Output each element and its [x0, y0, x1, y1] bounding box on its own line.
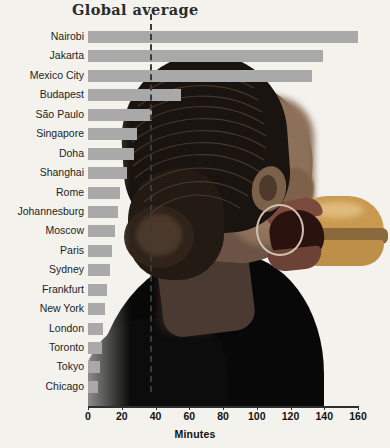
bar-row: Doha [88, 145, 358, 164]
x-tick-label: 100 [248, 410, 266, 422]
bar [88, 323, 103, 335]
category-label: Paris [60, 243, 84, 258]
x-axis-title: Minutes [0, 428, 390, 440]
bar-rows: NairobiJakartaMexico CityBudapestSão Pau… [88, 28, 358, 406]
category-label: Chicago [45, 379, 84, 394]
bar [88, 342, 102, 354]
category-label: Moscow [45, 223, 84, 238]
x-tick-label: 20 [116, 410, 128, 422]
category-label: Toronto [49, 340, 84, 355]
bar [88, 109, 152, 121]
category-label: Shanghai [40, 165, 84, 180]
bar-row: Nairobi [88, 28, 358, 47]
category-label: Johannesburg [17, 204, 84, 219]
bar-row: Shanghai [88, 164, 358, 183]
bar-row: Paris [88, 242, 358, 261]
category-label: Rome [56, 185, 84, 200]
bar [88, 128, 137, 140]
bar [88, 31, 358, 43]
bar [88, 167, 127, 179]
bar-row: Chicago [88, 378, 358, 397]
bar-row: Rome [88, 184, 358, 203]
bar [88, 303, 105, 315]
bar-row: Jakarta [88, 47, 358, 66]
chart-root: Global average NairobiJakartaMexico City… [0, 0, 390, 448]
category-label: Singapore [36, 126, 84, 141]
bar-row: Johannesburg [88, 203, 358, 222]
bar-row: Singapore [88, 125, 358, 144]
category-label: New York [40, 301, 84, 316]
bar-row: Tokyo [88, 358, 358, 377]
bar [88, 50, 323, 62]
x-tick-label: 0 [85, 410, 91, 422]
global-average-line [150, 14, 152, 392]
bar-row: New York [88, 300, 358, 319]
bar [88, 70, 312, 82]
category-label: Budapest [40, 87, 84, 102]
bar-row: London [88, 320, 358, 339]
x-tick-label: 40 [150, 410, 162, 422]
bar [88, 284, 107, 296]
bar [88, 148, 134, 160]
bar [88, 187, 120, 199]
bar-row: Budapest [88, 86, 358, 105]
bar-row: Sydney [88, 261, 358, 280]
category-label: Sydney [49, 262, 84, 277]
bar [88, 245, 112, 257]
category-label: Tokyo [57, 359, 84, 374]
bar-row: Mexico City [88, 67, 358, 86]
category-label: Mexico City [30, 68, 84, 83]
bar [88, 89, 181, 101]
x-tick-label: 160 [349, 410, 367, 422]
category-label: São Paulo [36, 107, 84, 122]
bar [88, 264, 110, 276]
bar [88, 361, 100, 373]
x-tick-label: 80 [217, 410, 229, 422]
bar-row: São Paulo [88, 106, 358, 125]
bar-row: Moscow [88, 222, 358, 241]
x-tick-label: 120 [282, 410, 300, 422]
category-label: Frankfurt [42, 282, 84, 297]
category-label: Nairobi [51, 29, 84, 44]
page-title: Global average [72, 1, 199, 18]
category-label: Jakarta [50, 48, 84, 63]
bar [88, 381, 98, 393]
plot-area: NairobiJakartaMexico CityBudapestSão Pau… [88, 28, 358, 406]
category-label: Doha [59, 146, 84, 161]
x-tick-label: 140 [315, 410, 333, 422]
category-label: London [49, 321, 84, 336]
bar [88, 206, 118, 218]
x-tick-label: 60 [183, 410, 195, 422]
bar-row: Frankfurt [88, 281, 358, 300]
bar [88, 225, 115, 237]
bar-row: Toronto [88, 339, 358, 358]
